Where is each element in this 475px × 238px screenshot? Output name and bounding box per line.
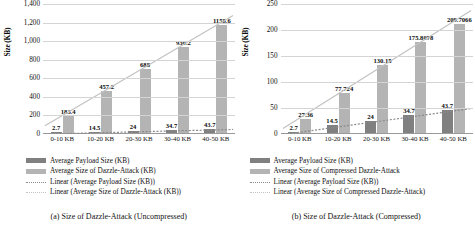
- legend-swatch-icon: [250, 158, 270, 163]
- bar-payload: 43.7: [442, 110, 453, 133]
- x-tick-label: 20-30 KB: [120, 135, 158, 147]
- legend-item: Average Payload Size (KB): [250, 156, 354, 165]
- x-tick-label: 10-20 KB: [81, 135, 119, 147]
- bar-value-label: 14.5: [326, 117, 338, 124]
- y-tick-label: 50: [270, 104, 277, 112]
- bar-group: 43.7209.7066: [434, 4, 472, 133]
- bar-dazzle: 130.15: [377, 65, 388, 133]
- bar-group: 2.727.36: [281, 4, 319, 133]
- legend-b: Average Payload Size (KB)Average Size of…: [238, 156, 475, 197]
- x-axis-line-a: [43, 133, 235, 134]
- y-axis-label-b: Size (KB): [240, 45, 249, 57]
- y-tick-label: 150: [267, 52, 278, 60]
- x-tick-label: 0-10 KB: [43, 135, 81, 147]
- x-axis-labels-b: 0-10 KB10-20 KB20-30 KB30-40 KB40-50 KB: [281, 135, 473, 147]
- bar-value-label: 130.15: [373, 57, 391, 64]
- legend-label: Linear (Average Size of Dazzle-Attack (K…: [50, 188, 181, 196]
- legend-swatch-icon: [250, 192, 270, 193]
- legend-item: Average Size of Dazzle-Attack (KB): [26, 167, 156, 176]
- bar-payload: 24: [365, 121, 376, 133]
- gridline: [281, 108, 473, 109]
- legend-item: Linear (Average Payload Size (KB)): [26, 177, 155, 186]
- legend-swatch-icon: [250, 169, 270, 174]
- bar-payload: 14.5: [327, 125, 338, 133]
- x-axis-labels-a: 0-10 KB10-20 KB20-30 KB30-40 KB40-50 KB: [43, 135, 235, 147]
- plot-area-a: 2.7183.414.5457.22468834.7930.243.71158.…: [43, 4, 235, 134]
- legend-swatch-icon: [26, 158, 46, 163]
- gridline: [43, 115, 235, 116]
- plot-b: Size (KB) 050100150200250 2.727.3614.577…: [238, 4, 475, 154]
- legend-item: Linear (Average Size of Dazzle-Attack (K…: [26, 188, 181, 197]
- bar-value-label: 2.7: [290, 124, 298, 131]
- bar-payload: 24: [128, 131, 139, 133]
- y-tick-label: 800: [29, 56, 40, 64]
- caption-a: (a) Size of Dazzle-Attack (Uncompressed): [0, 212, 238, 221]
- bar-groups-b: 2.727.3614.577.72424130.1534.7175.807843…: [281, 4, 473, 133]
- bar-payload: 43.7: [204, 129, 215, 133]
- y-tick-label: 250: [267, 0, 278, 8]
- bar-value-label: 457.2: [99, 83, 114, 90]
- chart-panel-b: Size (KB) 050100150200250 2.727.3614.577…: [238, 0, 475, 238]
- x-tick-label: 30-40 KB: [396, 135, 434, 147]
- legend-item: Average Payload Size (KB): [26, 156, 130, 165]
- y-tick-label: 600: [29, 74, 40, 82]
- gridline: [43, 78, 235, 79]
- y-axis-ticks-b: 050100150200250: [250, 4, 280, 134]
- y-tick-label: 200: [29, 111, 40, 119]
- legend-label: Average Size of Compressed Dazzle-Attack: [274, 167, 400, 175]
- bar-value-label: 209.7066: [447, 16, 472, 23]
- bar-value-label: 27.36: [298, 111, 313, 118]
- legend-item: Linear (Average Payload Size (KB)): [250, 177, 379, 186]
- bar-value-label: 14.5: [89, 124, 101, 131]
- y-tick-label: 400: [29, 93, 40, 101]
- bar-value-label: 183.4: [61, 108, 76, 115]
- bar-value-label: 43.7: [204, 121, 216, 128]
- gridline: [43, 60, 235, 61]
- x-tick-label: 40-50 KB: [197, 135, 235, 147]
- figure: Size (KB) 02004006008001,0001,2001,400 2…: [0, 0, 475, 238]
- gridline: [281, 4, 473, 5]
- legend-label: Linear (Average Size of Compressed Dazzl…: [274, 188, 426, 196]
- legend-swatch-icon: [26, 192, 46, 193]
- legend-item: Linear (Average Size of Compressed Dazzl…: [250, 188, 426, 197]
- plot-area-b: 2.727.3614.577.72424130.1534.7175.807843…: [281, 4, 473, 134]
- gridline: [43, 4, 235, 5]
- legend-item: Average Size of Compressed Dazzle-Attack: [250, 167, 400, 176]
- gridline: [281, 30, 473, 31]
- x-tick-label: 40-50 KB: [434, 135, 472, 147]
- bar-dazzle: 27.36: [300, 119, 311, 133]
- y-tick-label: 1,000: [24, 37, 40, 45]
- legend-label: Linear (Average Payload Size (KB)): [274, 178, 379, 186]
- legend-swatch-icon: [26, 182, 46, 183]
- bar-value-label: 688: [140, 61, 150, 68]
- x-tick-label: 10-20 KB: [319, 135, 357, 147]
- y-tick-label: 200: [267, 26, 278, 34]
- legend-swatch-icon: [250, 182, 270, 183]
- bar-value-label: 24: [130, 123, 137, 130]
- bar-dazzle: 183.4: [63, 116, 74, 133]
- bar-group: 24130.15: [357, 4, 395, 133]
- gridline: [281, 56, 473, 57]
- bar-payload: 34.7: [166, 130, 177, 133]
- bar-payload: 14.5: [89, 132, 100, 133]
- bar-value-label: 24: [367, 113, 374, 120]
- legend-label: Average Payload Size (KB): [50, 157, 130, 165]
- legend-swatch-icon: [26, 169, 46, 174]
- bar-value-label: 77.724: [335, 85, 353, 92]
- bar-value-label: 175.8078: [409, 34, 434, 41]
- caption-b: (b) Size of Dazzle-Attack (Compressed): [238, 212, 475, 221]
- y-tick-label: 0: [36, 130, 40, 138]
- bar-value-label: 2.7: [52, 124, 60, 131]
- x-tick-label: 20-30 KB: [357, 135, 395, 147]
- bar-dazzle: 209.7066: [454, 24, 465, 133]
- plot-a: Size (KB) 02004006008001,0001,2001,400 2…: [0, 4, 237, 154]
- gridline: [43, 97, 235, 98]
- y-axis-ticks-a: 02004006008001,0001,2001,400: [12, 4, 42, 134]
- bar-payload: 34.7: [403, 115, 414, 133]
- bar-group: 14.577.724: [319, 4, 357, 133]
- bar-group: 34.7175.8078: [396, 4, 434, 133]
- x-tick-label: 30-40 KB: [158, 135, 196, 147]
- legend-label: Average Size of Dazzle-Attack (KB): [50, 167, 156, 175]
- y-tick-label: 100: [267, 78, 278, 86]
- y-tick-label: 0: [274, 130, 278, 138]
